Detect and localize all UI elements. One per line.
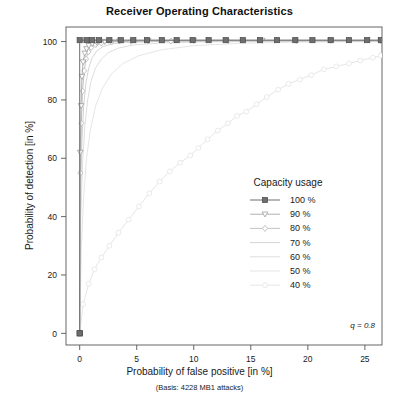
legend-item-100pct[interactable]: 100 % [250,195,316,205]
data-marker [78,104,84,109]
legend-label: 60 % [290,252,311,262]
data-marker [286,81,291,86]
data-marker [328,38,333,43]
series-line [80,41,381,334]
data-marker [264,95,269,100]
data-marker [358,58,363,63]
data-marker [174,38,179,43]
x-tick-label: 20 [303,354,313,364]
series-line [80,41,381,333]
data-marker [347,61,352,66]
data-marker [293,38,298,43]
data-marker [254,102,259,107]
data-marker [118,38,123,43]
series-line [80,41,381,333]
data-marker [196,146,201,151]
data-marker [346,38,351,43]
data-marker [370,55,375,60]
data-marker [96,38,101,43]
x-tick-label: 0 [77,354,82,364]
data-marker [223,38,228,43]
plot-frame [66,27,382,345]
data-marker [116,230,121,235]
legend-label: 90 % [290,209,311,219]
data-marker [126,217,131,222]
x-tick-label: 10 [189,354,199,364]
legend-item-80pct[interactable]: 80 % [250,223,311,233]
data-marker [365,38,370,43]
x-tick-label: 5 [134,354,139,364]
data-marker [131,38,136,43]
data-marker [297,77,302,82]
roc-chart: Receiver Operating Characteristics 05101… [0,0,399,400]
data-marker [276,87,281,92]
data-marker [274,38,279,43]
data-marker [321,67,326,72]
data-marker [257,38,262,43]
data-marker [107,243,112,248]
series-50pct [80,42,381,334]
data-marker [235,114,240,119]
data-marker [262,225,267,231]
data-marker [240,38,245,43]
y-tick-label: 0 [52,329,57,339]
legend-item-60pct[interactable]: 60 % [250,252,311,262]
data-marker [137,204,142,209]
series-70pct [80,41,381,333]
series-layer [77,38,384,337]
series-100pct [77,38,383,336]
series-line [80,40,381,333]
plot-canvas: 0510152025020406080100Capacity usage100 … [0,0,399,400]
x-axis-subtitle: (Basis: 4228 MB1 attacks) [0,383,399,392]
data-marker [215,128,220,133]
x-tick-label: 15 [246,354,256,364]
data-marker [81,302,86,307]
data-marker [206,38,211,43]
x-tick-label: 25 [360,354,370,364]
y-axis-title: Probability of detection [in %] [24,76,35,296]
data-marker [77,38,82,43]
data-marker [178,160,183,165]
data-marker [147,191,152,196]
legend-item-50pct[interactable]: 50 % [250,266,311,276]
legend-item-70pct[interactable]: 70 % [250,238,311,248]
data-marker [84,38,89,43]
data-marker [77,331,82,336]
data-marker [188,153,193,158]
data-marker [190,38,195,43]
legend-label: 100 % [290,195,316,205]
series-60pct [80,41,381,333]
data-marker [86,281,91,286]
data-marker [244,109,249,114]
data-marker [378,53,383,58]
data-marker [263,283,268,288]
series-90pct [77,38,384,336]
data-marker [80,88,85,94]
y-tick-label: 80 [48,95,58,105]
data-marker [144,38,149,43]
data-marker [159,38,164,43]
data-marker [107,38,112,43]
series-line [80,40,381,333]
data-marker [309,73,314,78]
legend-item-90pct[interactable]: 90 % [250,209,311,219]
legend-label: 40 % [290,280,311,290]
legend-item-40pct[interactable]: 40 % [250,280,311,290]
y-tick-label: 20 [48,270,58,280]
data-marker [378,38,383,43]
series-line [80,56,381,334]
data-marker [310,38,315,43]
data-marker [157,179,162,184]
data-marker [92,267,97,272]
legend-title: Capacity usage [254,177,323,188]
data-marker [90,38,95,43]
legend-label: 80 % [290,223,311,233]
q-annotation: q = 0.8 [350,321,375,330]
y-tick-label: 60 [48,153,58,163]
y-tick-label: 40 [48,212,58,222]
data-marker [99,255,104,260]
legend-label: 70 % [290,238,311,248]
data-marker [205,137,210,142]
series-line [80,42,381,334]
series-40pct [77,53,383,336]
